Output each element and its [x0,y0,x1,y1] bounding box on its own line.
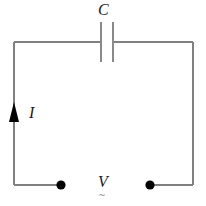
current-arrow-icon [9,102,19,122]
terminal-left-dot [56,180,65,189]
current-label: I [29,105,34,121]
ac-source-tilde-icon: ~ [99,189,105,200]
circuit-diagram: C I V ~ [0,0,206,206]
terminal-right-dot [145,180,154,189]
capacitor-label: C [98,2,109,18]
